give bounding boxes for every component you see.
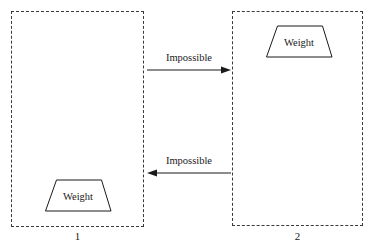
arrow-backward-group: Impossible (147, 154, 231, 182)
arrow-left-icon (147, 168, 231, 180)
arrow-forward-line (147, 65, 231, 77)
region-2-label: 2 (232, 230, 363, 242)
weight-block-region-1: Weight (44, 179, 112, 212)
weight-block-region-1-label: Weight (44, 179, 112, 212)
arrow-forward-group: Impossible (147, 51, 231, 79)
arrow-right-icon (147, 65, 231, 77)
arrow-backward-line (147, 168, 231, 180)
region-1-label: 1 (11, 230, 144, 242)
weight-block-region-2-label: Weight (265, 25, 333, 58)
weight-block-region-2: Weight (265, 25, 333, 58)
arrow-forward-label: Impossible (147, 51, 231, 64)
arrow-backward-label: Impossible (147, 154, 231, 167)
diagram-canvas: 1 Weight 2 Weight Impossible Impossible (0, 0, 374, 248)
